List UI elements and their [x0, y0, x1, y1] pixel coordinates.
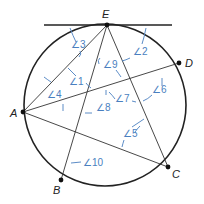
angle-label-6: ∠6 [152, 84, 167, 95]
angle-label-5: ∠5 [123, 128, 138, 139]
angle-label-10: ∠10 [83, 157, 104, 168]
point-B [59, 178, 64, 183]
angle-label-3: ∠3 [71, 39, 86, 50]
label-A: A [9, 107, 17, 119]
point-D [177, 61, 182, 66]
point-E [105, 23, 110, 28]
geometry-diagram: E D A B C ∠3 ∠1 ∠4 ∠2 ∠ [0, 0, 204, 204]
point-A [21, 110, 26, 115]
angle-label-2: ∠2 [133, 46, 148, 57]
angle-label-8: ∠8 [96, 102, 111, 113]
angle-label-9: ∠9 [103, 59, 118, 70]
point-C [166, 165, 171, 170]
label-B: B [53, 184, 60, 196]
label-E: E [102, 8, 110, 20]
angle-label-1: ∠1 [69, 76, 84, 87]
label-C: C [172, 168, 180, 180]
angle-label-7: ∠7 [115, 93, 130, 104]
label-D: D [185, 57, 193, 69]
angle-label-4: ∠4 [47, 89, 62, 100]
